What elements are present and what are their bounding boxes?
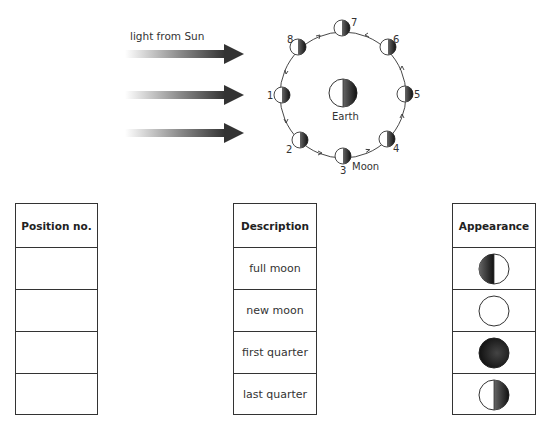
position-label-3: 3 xyxy=(340,165,346,176)
moon-position-2-icon xyxy=(292,132,308,148)
position-label-1: 1 xyxy=(267,90,273,101)
moon-right-half-dark-icon xyxy=(477,378,511,412)
appearance-table: Appearance xyxy=(452,203,536,415)
position-answer-cell[interactable] xyxy=(16,247,97,289)
light-from-sun-label: light from Sun xyxy=(130,30,204,42)
position-answer-cell[interactable] xyxy=(16,331,97,373)
earth-icon xyxy=(329,79,357,107)
position-answer-cell[interactable] xyxy=(16,289,97,331)
position-table: Position no. xyxy=(15,203,98,415)
description-cell: first quarter xyxy=(234,331,316,373)
moon-position-1-icon xyxy=(274,87,290,103)
earth-label: Earth xyxy=(332,111,359,122)
moon-position-5-icon xyxy=(397,86,413,102)
moon-left-half-dark-icon xyxy=(477,252,511,286)
description-cell: full moon xyxy=(234,247,316,289)
moon-phase-diagram: light from Sun Earth xyxy=(0,0,551,200)
appearance-cell xyxy=(453,331,535,373)
moon-label: Moon xyxy=(352,161,379,172)
moon-all-dark-icon xyxy=(477,336,511,370)
position-answer-cell[interactable] xyxy=(16,373,97,415)
sunlight-arrow-icon xyxy=(125,123,244,143)
moon-all-light-icon xyxy=(477,294,511,328)
description-cell: last quarter xyxy=(234,373,316,415)
position-label-6: 6 xyxy=(393,34,399,45)
moon-position-3-icon xyxy=(335,148,351,164)
appearance-cell xyxy=(453,289,535,331)
position-label-4: 4 xyxy=(393,143,399,154)
position-table-header: Position no. xyxy=(16,204,97,247)
appearance-cell xyxy=(453,247,535,289)
description-table-header: Description xyxy=(234,204,316,247)
appearance-cell xyxy=(453,373,535,415)
description-cell: new moon xyxy=(234,289,316,331)
moon-position-7-icon xyxy=(334,20,350,36)
position-label-5: 5 xyxy=(414,89,420,100)
position-label-7: 7 xyxy=(351,17,357,28)
position-label-2: 2 xyxy=(286,144,292,155)
sunlight-arrow-icon xyxy=(125,44,244,64)
sunlight-arrow-icon xyxy=(125,85,244,105)
description-table: Description full moon new moon first qua… xyxy=(233,203,317,415)
appearance-table-header: Appearance xyxy=(453,204,535,247)
position-label-8: 8 xyxy=(287,34,293,45)
